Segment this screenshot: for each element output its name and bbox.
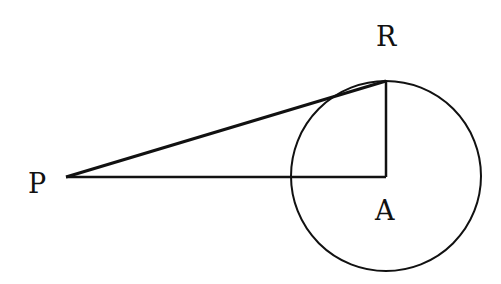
geometry-diagram: R A P [0, 0, 501, 284]
segment-pr [66, 81, 386, 177]
label-r: R [376, 21, 397, 52]
label-a: A [374, 195, 395, 226]
label-p: P [28, 168, 46, 199]
